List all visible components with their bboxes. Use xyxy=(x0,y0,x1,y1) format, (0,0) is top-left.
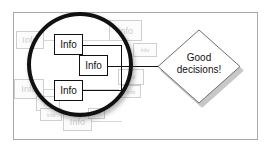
good-decisions-line2: decisions! xyxy=(157,64,241,76)
magnifying-lens-icon xyxy=(27,12,133,117)
good-decisions-label: Good decisions! xyxy=(157,52,241,76)
figure-canvas: Info Info info info Info Info Info info … xyxy=(0,0,272,154)
good-decisions-shape[interactable]: Good decisions! xyxy=(157,29,241,104)
good-decisions-line1: Good xyxy=(157,52,241,64)
